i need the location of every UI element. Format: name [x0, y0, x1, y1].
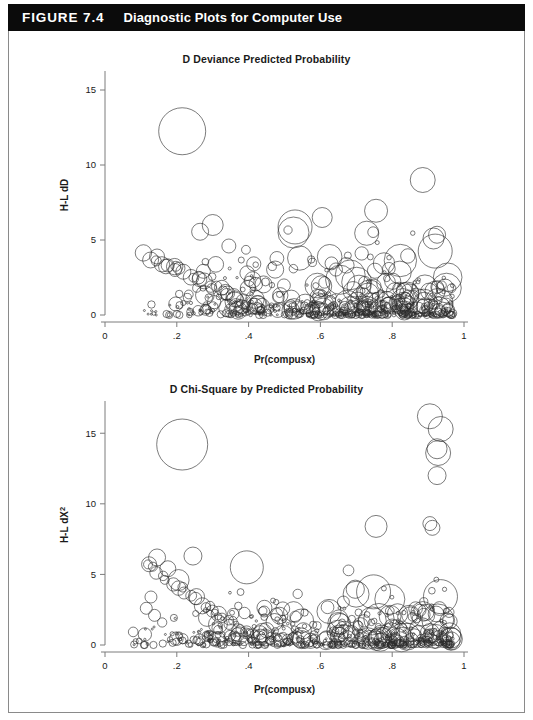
data-bubble	[169, 304, 171, 306]
data-bubble	[164, 633, 166, 635]
data-bubble	[150, 313, 152, 315]
data-bubble-outlier	[192, 223, 209, 240]
x-tick-label: .2	[173, 330, 181, 341]
y-axis-title: H-L dX2	[58, 507, 71, 543]
data-bubble	[323, 639, 326, 642]
data-bubble	[433, 263, 462, 292]
data-bubble-outlier	[417, 404, 442, 429]
data-bubble	[228, 267, 231, 270]
data-bubble-outlier	[365, 199, 388, 222]
y-tick-label: 15	[85, 428, 96, 439]
x-tick-label: .4	[245, 330, 253, 341]
figure-caption-label: Diagnostic Plots for Computer Use	[124, 10, 343, 25]
data-bubble	[306, 284, 309, 287]
data-bubble	[277, 279, 290, 292]
x-tick-label: 1	[461, 660, 466, 671]
data-bubble	[355, 221, 379, 245]
data-bubble	[151, 256, 161, 266]
data-bubble	[242, 245, 251, 254]
data-bubble	[336, 631, 338, 633]
data-bubble	[442, 587, 446, 591]
data-bubble	[429, 587, 436, 594]
data-bubble	[159, 640, 166, 647]
data-bubble	[381, 586, 386, 591]
data-bubble	[343, 581, 369, 607]
data-bubble	[287, 622, 290, 625]
scatter-plot-chisquare: 0510150.2.4.6.81Pr(compusx)H-L dX2	[9, 383, 524, 713]
data-bubble	[143, 310, 145, 312]
axes: 0510150.2.4.6.81Pr(compusx)H-L dD	[59, 71, 468, 365]
data-bubble	[214, 303, 216, 305]
data-bubble	[198, 636, 200, 638]
data-bubble	[148, 301, 155, 308]
data-bubble	[368, 227, 379, 238]
data-bubble	[317, 244, 342, 269]
data-bubble	[193, 611, 199, 617]
data-bubble	[189, 301, 192, 304]
x-tick-label: 1	[461, 330, 466, 341]
data-bubble	[302, 624, 306, 628]
data-bubble	[193, 631, 195, 633]
data-bubble-outlier	[149, 549, 166, 566]
data-bubble	[251, 298, 258, 305]
data-bubble	[332, 314, 334, 316]
data-bubble	[401, 249, 415, 263]
y-tick-label: 5	[91, 234, 96, 245]
data-bubble	[135, 245, 151, 261]
data-bubble	[323, 644, 325, 646]
data-bubble	[269, 310, 271, 312]
data-bubble-outlier	[410, 168, 435, 193]
y-tick-label: 5	[91, 569, 96, 580]
data-bubble	[236, 276, 238, 278]
chart-panel-chisquare: D Chi-Square by Predicted Probability 05…	[9, 383, 524, 711]
data-bubble	[246, 298, 248, 300]
data-bubble	[253, 262, 259, 268]
data-bubble	[348, 634, 352, 638]
x-tick-label: .6	[316, 330, 324, 341]
data-bubble	[388, 261, 411, 284]
data-bubble	[184, 290, 193, 299]
data-bubble	[276, 314, 278, 316]
data-bubble	[183, 293, 191, 301]
data-bubble-outlier	[159, 108, 206, 155]
data-bubble-outlier	[426, 441, 451, 466]
data-bubble	[235, 602, 243, 610]
data-bubble	[271, 598, 276, 603]
x-axis-title: Pr(compusx)	[254, 354, 315, 365]
x-tick-label: .8	[388, 660, 396, 671]
y-tick-label: 10	[85, 498, 96, 509]
data-bubble-outlier	[428, 417, 453, 442]
data-bubble	[411, 231, 416, 236]
data-bubble	[209, 307, 211, 309]
figure-header-bar: FIGURE 7.4 Diagnostic Plots for Computer…	[8, 4, 525, 31]
data-bubble-outlier	[423, 228, 444, 249]
data-bubble	[276, 305, 278, 307]
data-bubble-outlier	[278, 217, 309, 248]
data-bubble-outlier	[312, 208, 332, 228]
data-bubble	[128, 627, 138, 637]
y-tick-label: 10	[85, 159, 96, 170]
data-bubble	[321, 601, 334, 614]
data-bubble	[240, 287, 245, 292]
data-bubble	[276, 291, 282, 297]
x-tick-label: .8	[388, 330, 396, 341]
data-bubble	[151, 628, 153, 630]
data-bubble-outlier	[140, 602, 152, 614]
data-bubble-outlier	[145, 591, 157, 603]
x-tick-label: 0	[102, 660, 107, 671]
data-bubble	[237, 589, 244, 596]
data-bubble	[450, 284, 454, 288]
y-tick-label: 15	[85, 84, 96, 95]
data-bubble	[153, 626, 155, 628]
data-bubble	[284, 226, 292, 234]
data-bubble-outlier	[222, 239, 236, 253]
data-bubble-outlier	[157, 419, 208, 470]
x-tick-label: 0	[102, 330, 107, 341]
data-bubble	[263, 314, 265, 316]
data-bubble	[186, 302, 188, 304]
data-bubble-outlier	[428, 467, 446, 485]
data-bubble	[176, 311, 183, 318]
data-bubble	[355, 247, 368, 260]
data-bubble	[144, 560, 153, 569]
data-bubble	[357, 575, 391, 609]
